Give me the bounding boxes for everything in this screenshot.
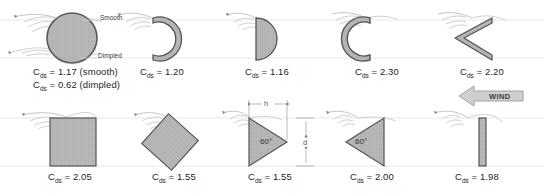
shape-flat-plate-normal — [438, 111, 502, 166]
cd-value: = 2.00 — [364, 171, 394, 182]
streamlines-9 — [330, 111, 396, 127]
cd-symbol: C — [350, 171, 357, 182]
drag-coefficient-figure — [0, 0, 543, 193]
cd-subscript: ds — [147, 72, 154, 79]
cd-subscript: ds — [467, 72, 474, 79]
caption-square: Cds = 2.05 — [48, 171, 92, 187]
caption-triangle-apex-upwind: Cds = 2.00 — [350, 171, 394, 187]
v-shell-5 — [455, 18, 492, 60]
cd-subscript: ds — [362, 72, 369, 79]
caption-triangle-apex-downwind: Cds = 1.55 — [248, 171, 292, 187]
cd-subscript: ds — [40, 72, 47, 79]
cd-value: = 2.20 — [474, 66, 504, 77]
shape-sphere — [12, 13, 102, 63]
cd-symbol: C — [140, 66, 147, 77]
cd-value: = 0.62 (dimpled) — [47, 79, 120, 90]
cd-subscript: ds — [357, 177, 364, 184]
angle-label-triangle-downwind: 60° — [260, 137, 272, 146]
cd-subscript: ds — [159, 177, 166, 184]
cd-symbol: C — [460, 66, 467, 77]
cd-symbol: C — [355, 66, 362, 77]
caption-sphere-dimpled: Cds = 0.62 (dimpled) — [33, 79, 120, 95]
sphere-smooth-label: Smooth — [100, 14, 122, 22]
cd-symbol: C — [48, 171, 55, 182]
plate-10 — [479, 118, 486, 166]
dimension-label-h: h — [264, 99, 268, 108]
cd-value: = 1.98 — [469, 171, 499, 182]
sphere-body — [47, 13, 97, 63]
dimension-label-d: d — [303, 138, 307, 147]
caption-flat-plate: Cds = 1.98 — [455, 171, 499, 187]
caption-half-disc: Cds = 1.16 — [245, 66, 289, 82]
cd-value: = 1.20 — [154, 66, 184, 77]
cd-symbol: C — [245, 66, 252, 77]
caption-diamond: Cds = 1.55 — [152, 171, 196, 187]
shape-square-flat-face — [26, 112, 96, 166]
c-shell-4 — [341, 17, 370, 61]
streamlines-10 — [438, 111, 502, 127]
shape-square-rotated-45 — [138, 113, 198, 171]
cd-subscript: ds — [55, 177, 62, 184]
cd-subscript: ds — [255, 177, 262, 184]
streamlines-3 — [230, 13, 258, 30]
cd-value: = 2.05 — [62, 171, 92, 182]
cd-subscript: ds — [462, 177, 469, 184]
cd-value: = 1.55 — [166, 171, 196, 182]
sphere-dimpled-label: Dimpled — [98, 52, 122, 60]
square-6 — [50, 118, 96, 166]
streamlines-2 — [122, 13, 156, 30]
caption-c-shell-concave: Cds = 1.20 — [140, 66, 184, 82]
caption-v-shell: Cds = 2.20 — [460, 66, 504, 82]
diamond-7 — [142, 114, 198, 170]
cd-value: = 2.30 — [369, 66, 399, 77]
shape-triangle-apex-downwind — [226, 100, 314, 166]
cd-symbol: C — [248, 171, 255, 182]
cd-symbol: C — [455, 171, 462, 182]
cd-value: = 1.16 — [259, 66, 289, 77]
cd-symbol: C — [33, 66, 40, 77]
angle-label-triangle-upwind: 60° — [355, 137, 367, 146]
caption-c-shell-convex: Cds = 2.30 — [355, 66, 399, 82]
wind-label: WIND — [489, 92, 511, 101]
cd-subscript: ds — [252, 72, 259, 79]
cd-value: = 1.17 (smooth) — [47, 66, 118, 77]
c-shell-2 — [153, 17, 182, 61]
half-disc-3 — [256, 18, 277, 60]
shape-open-c-shell-concave-upwind — [122, 13, 182, 61]
cd-subscript: ds — [40, 85, 47, 92]
cd-value: = 1.55 — [262, 171, 292, 182]
cd-symbol: C — [152, 171, 159, 182]
cd-symbol: C — [33, 79, 40, 90]
